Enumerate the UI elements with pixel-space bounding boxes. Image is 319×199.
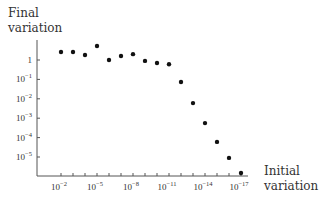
data-point xyxy=(83,53,87,57)
data-point xyxy=(155,61,159,65)
data-point xyxy=(59,50,63,54)
y-tick-label: 10−4 xyxy=(16,131,33,143)
x-tick-label: 10−8 xyxy=(123,180,139,192)
y-tick-label: 10−3 xyxy=(16,111,32,123)
data-point xyxy=(71,50,75,54)
x-tick-label: 10−17 xyxy=(229,180,249,192)
y-axis-ticks: 110−110−210−310−410−5 xyxy=(16,55,40,162)
data-point xyxy=(179,80,183,84)
axes xyxy=(37,40,248,176)
data-point xyxy=(167,62,171,66)
data-point xyxy=(143,59,147,63)
data-point xyxy=(191,101,195,105)
data-point xyxy=(119,54,123,58)
data-point xyxy=(131,52,135,56)
data-point xyxy=(95,44,99,48)
x-tick-label: 10−5 xyxy=(87,180,103,192)
x-tick-label: 10−11 xyxy=(158,180,177,192)
x-tick-label: 10−14 xyxy=(193,180,213,192)
y-tick-label: 1 xyxy=(28,55,33,65)
x-tick-label: 10−2 xyxy=(51,180,67,192)
y-tick-label: 10−5 xyxy=(16,150,32,162)
data-point xyxy=(227,156,231,160)
y-tick-label: 10−1 xyxy=(16,72,32,84)
data-point xyxy=(239,171,243,175)
data-point xyxy=(203,121,207,125)
data-point xyxy=(107,58,111,62)
scatter-plot: 110−110−210−310−410−5 10−210−510−810−111… xyxy=(0,0,319,199)
y-tick-label: 10−2 xyxy=(16,92,32,104)
data-points xyxy=(59,44,243,175)
data-point xyxy=(215,140,219,144)
